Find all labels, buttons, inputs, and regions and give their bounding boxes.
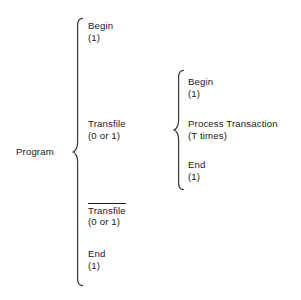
level1-item-1: Transfile (0 or 1) [88, 118, 126, 141]
level1-item-3-name: End [88, 248, 106, 260]
level2-item-1-count: (T times) [188, 130, 278, 142]
level2-item-1-name: Process Transaction [188, 118, 278, 130]
level1-item-3: End (1) [88, 248, 106, 271]
level2-item-0-count: (1) [188, 88, 213, 100]
level1-item-1-count: (0 or 1) [88, 130, 126, 142]
level2-item-0: Begin (1) [188, 76, 213, 99]
level1-item-2-name: Transfile [88, 203, 126, 216]
level1-item-3-count: (1) [88, 260, 106, 272]
level2-item-0-name: Begin [188, 76, 213, 88]
program-brace [70, 14, 86, 294]
decomposition-diagram: Program Begin (1) Transfile (0 or 1) Tra… [0, 0, 301, 300]
level1-item-0-count: (1) [88, 32, 113, 44]
level2-item-1: Process Transaction (T times) [188, 118, 278, 141]
transfile-brace [171, 66, 187, 198]
level1-item-0-name: Begin [88, 20, 113, 32]
level1-item-2: Transfile (0 or 1) [88, 203, 126, 228]
level2-item-2: End (1) [188, 159, 206, 182]
level1-item-1-name: Transfile [88, 118, 126, 130]
level2-item-2-count: (1) [188, 171, 206, 183]
level2-item-2-name: End [188, 159, 206, 171]
level1-item-0: Begin (1) [88, 20, 113, 43]
root-label: Program [16, 146, 54, 158]
level1-item-2-count: (0 or 1) [88, 216, 126, 228]
